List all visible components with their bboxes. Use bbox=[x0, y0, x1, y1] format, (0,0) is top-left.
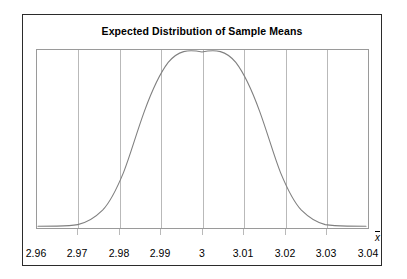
x-tick-label: 3.01 bbox=[233, 247, 253, 259]
x-bar-letter: x bbox=[375, 232, 380, 243]
x-tick-label: 3.04 bbox=[358, 247, 378, 259]
x-tick-label: 3.02 bbox=[275, 247, 295, 259]
x-tick-label: 2.97 bbox=[67, 247, 87, 259]
x-tick-label: 2.98 bbox=[109, 247, 129, 259]
x-tick-label: 3.03 bbox=[316, 247, 336, 259]
axis-tick-3-01 bbox=[243, 229, 244, 235]
x-bar-axis-symbol: x bbox=[375, 231, 380, 243]
chart-title: Expected Distribution of Sample Means bbox=[23, 25, 381, 37]
figure-frame: Expected Distribution of Sample Means 2.… bbox=[22, 14, 382, 266]
x-tick-label: 3 bbox=[199, 247, 205, 259]
axis-tick-3-03 bbox=[326, 229, 327, 235]
axis-tick-2-97 bbox=[77, 229, 78, 235]
x-tick-label: 2.99 bbox=[150, 247, 170, 259]
axis-tick-3-00 bbox=[202, 229, 203, 235]
distribution-curve bbox=[37, 50, 368, 228]
axis-tick-2-98 bbox=[119, 229, 120, 235]
axis-tick-3-02 bbox=[285, 229, 286, 235]
axis-tick-2-99 bbox=[160, 229, 161, 235]
plot-area bbox=[36, 49, 369, 229]
x-tick-label: 2.96 bbox=[26, 247, 46, 259]
